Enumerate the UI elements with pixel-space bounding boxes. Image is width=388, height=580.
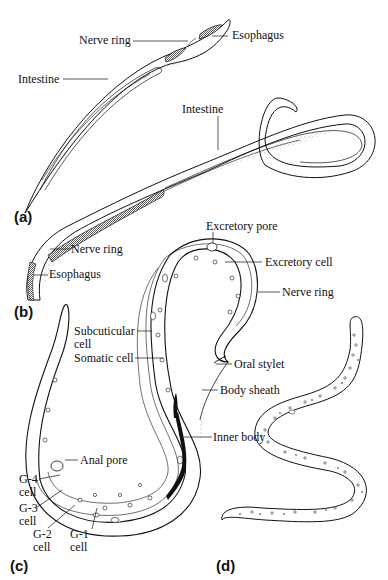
label-b-nerve-ring: Nerve ring [71,243,123,256]
label-c-excretory-cell: Excretory cell [265,256,333,269]
panel-marker-d: (d) [216,557,235,574]
label-c-g4-line2: cell [19,486,38,499]
label-c-body-sheath: Body sheath [220,384,280,397]
label-c-subcuticular-cell: Subcuticular cell [74,325,135,351]
worm-c-anal-pore [51,461,63,471]
label-c-g4-cell: G-4 cell [19,473,38,499]
label-c-excretory-pore: Excretory pore [206,220,278,233]
worm-a-stipple [30,45,215,205]
label-c-g1-line2: cell [70,541,89,554]
panel-marker-b: (b) [14,303,33,320]
label-c-subcuticular-line2: cell [74,338,135,351]
worm-d [222,317,367,522]
label-c-oral-stylet: Oral stylet [234,358,284,371]
label-c-g2-line2: cell [33,541,52,554]
label-b-esophagus: Esophagus [49,268,101,281]
worm-a-body [25,20,230,213]
worm-c-inner-wall [36,244,252,516]
label-c-g3-cell: G-3 cell [19,502,38,528]
label-c-inner-body: Inner body [213,431,265,444]
worm-a [25,20,230,213]
label-a-esophagus: Esophagus [232,29,284,42]
label-c-g2-cell: G-2 cell [33,528,52,554]
label-c-somatic-cell: Somatic cell [74,352,134,365]
panel-marker-c: (c) [10,557,28,574]
worm-c-excretory-pore [207,243,217,251]
label-c-g1-cell: G-1 cell [70,528,89,554]
label-a-intestine: Intestine [18,73,59,86]
label-b-intestine: Intestine [182,103,223,116]
worm-d-body [222,317,367,522]
panel-marker-a: (a) [14,208,32,225]
worm-c-cells [43,256,240,523]
label-a-nerve-ring: Nerve ring [79,34,131,47]
label-c-anal-pore: Anal pore [80,454,128,467]
label-c-nerve-ring: Nerve ring [282,286,334,299]
